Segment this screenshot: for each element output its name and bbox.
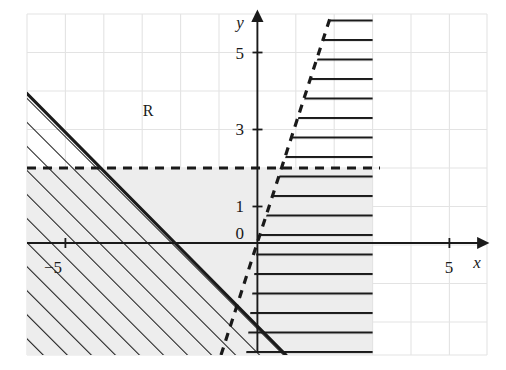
x-axis-label: x [472,253,481,272]
y-axis-label: y [234,13,244,32]
x-tick-label-minus5: −5 [44,258,62,277]
y-tick-label-0: 0 [236,224,245,243]
region-label-r: R [143,102,154,119]
y-tick-label-1: 1 [236,197,245,216]
y-tick-label-5: 5 [236,44,245,63]
graph-canvas: −5 5 0 1 3 5 y x R [0,0,506,370]
inequality-graph-figure: −5 5 0 1 3 5 y x R [0,0,506,370]
x-tick-label-5: 5 [445,258,454,277]
y-tick-label-3: 3 [236,120,245,139]
